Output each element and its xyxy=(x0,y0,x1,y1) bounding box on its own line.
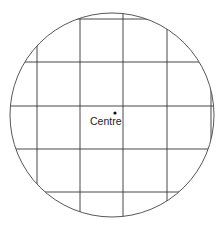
grid-lines xyxy=(0,0,224,225)
grid-circle-diagram xyxy=(0,0,224,225)
centre-label: Centre xyxy=(90,115,122,127)
